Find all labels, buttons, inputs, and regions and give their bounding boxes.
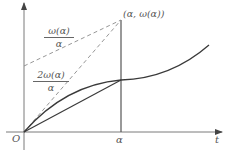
slope-lower-numerator: 2ω(α) <box>33 70 69 82</box>
curve-continuation <box>121 45 209 80</box>
point-label: (α, ω(α)) <box>123 9 164 19</box>
slope-upper-denominator: α <box>44 38 74 49</box>
t-axis-label: t <box>215 135 219 145</box>
origin-label: O <box>12 134 20 144</box>
slope-lower-denominator: α <box>33 82 69 93</box>
slope-upper-numerator: ω(α) <box>44 26 74 38</box>
alpha-tick-label: α <box>116 135 123 145</box>
slope-label-lower: 2ω(α) α <box>33 70 69 92</box>
slope-label-upper: ω(α) α <box>44 26 74 48</box>
